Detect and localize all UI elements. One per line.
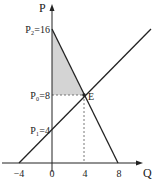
p2-label: P₂=16 xyxy=(25,24,50,35)
p0-label: P₀=8 xyxy=(30,90,50,101)
equilibrium-label: E xyxy=(88,91,94,102)
x-axis-arrow-icon xyxy=(136,161,143,166)
y-axis-arrow-icon xyxy=(50,4,55,11)
x-tick-0: 0 xyxy=(50,168,55,179)
equilibrium-point xyxy=(82,93,86,97)
x-axis-label: Q xyxy=(143,166,152,179)
x-tick-8: 8 xyxy=(117,168,122,179)
p1-label: P₁=4 xyxy=(30,125,50,136)
y-axis-label: P xyxy=(39,1,46,15)
x-tick-neg4: −4 xyxy=(14,168,25,179)
x-tick-4: 4 xyxy=(83,168,88,179)
supply-demand-diagram: P Q P₂=16 P₀=8 P₁=4 E −4 0 4 8 xyxy=(0,0,155,179)
